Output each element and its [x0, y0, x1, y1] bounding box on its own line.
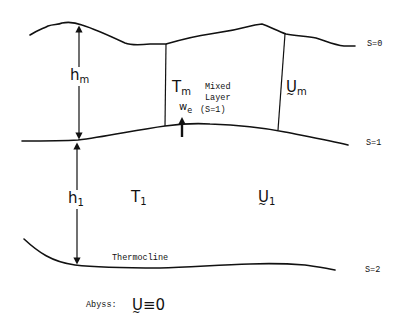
temperature-profile-line — [165, 44, 166, 126]
entrainment-arrow-head — [179, 117, 186, 124]
surface-label-s0: S=0 — [367, 40, 382, 49]
thermocline-base-curve — [24, 239, 335, 270]
thermocline-temperature-label: T1 — [131, 190, 147, 207]
thermocline-depth-label: h1 — [68, 190, 84, 209]
thermocline-name: Thermocline — [112, 254, 168, 263]
surface-label-s1: S=1 — [366, 139, 381, 148]
mixed-layer-base-curve — [22, 124, 348, 145]
entrainment-label: we — [179, 102, 192, 115]
mixed-layer-depth-label: hm — [70, 67, 89, 86]
mixed-layer-name: Mixed Layer — [205, 82, 231, 104]
ocean-layer-diagram — [0, 0, 402, 329]
mixed-layer-temperature-label: Tm — [172, 80, 191, 97]
abyss-velocity-condition: U≡0 — [132, 298, 165, 313]
entrainment-note: (S=1) — [200, 106, 226, 115]
abyss-label: Abyss: — [86, 301, 117, 310]
thermocline-velocity-label: U1 — [258, 190, 275, 207]
surface-label-s2: S=2 — [365, 266, 380, 275]
mixed-layer-velocity-label: Um — [286, 80, 307, 97]
velocity-profile-line — [278, 34, 285, 130]
